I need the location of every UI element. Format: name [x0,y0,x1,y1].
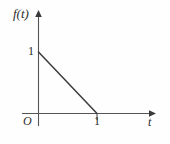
y-axis-label: f(t) [13,7,29,20]
x-axis-label: t [148,116,151,128]
origin-label: O [23,115,32,127]
function-graph-figure: f(t) t O 1 1 [0,0,170,144]
function-line-segment [39,52,98,114]
f-axis-arrowhead [35,10,42,17]
x-tick-label-one: 1 [94,115,100,127]
y-tick-label-one: 1 [28,45,34,57]
